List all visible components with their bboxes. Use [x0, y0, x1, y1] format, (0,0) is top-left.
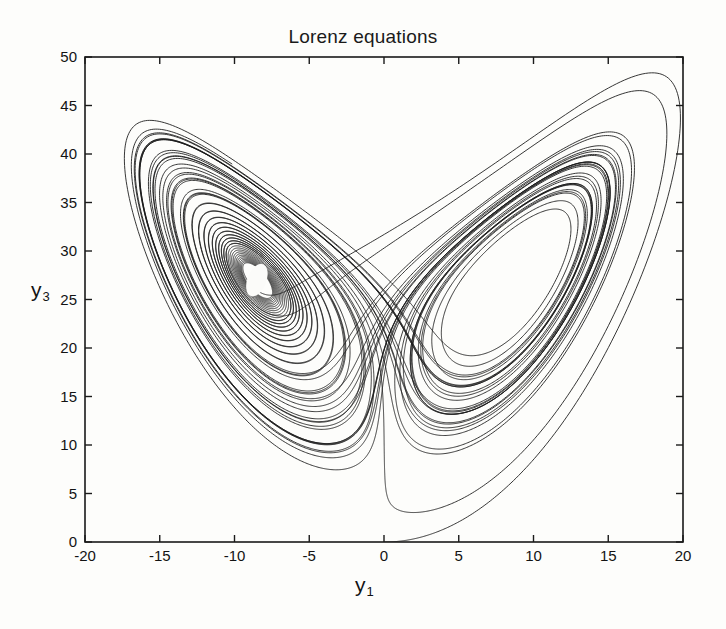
- y-axis-label-text: y: [31, 278, 42, 301]
- y-tick-label: 40: [43, 145, 77, 162]
- y-tick-label: 35: [43, 194, 77, 211]
- x-axis-label-subscript: 1: [367, 584, 374, 599]
- x-axis-label: y1: [355, 573, 373, 597]
- x-tick-label: 15: [588, 547, 628, 564]
- x-tick-label: 0: [364, 547, 404, 564]
- y-tick-label: 45: [43, 97, 77, 114]
- x-tick-label: 20: [663, 547, 703, 564]
- x-tick-label: 10: [514, 547, 554, 564]
- x-axis-label-text: y: [355, 573, 366, 596]
- y-tick-label: 30: [43, 242, 77, 259]
- y-tick-label: 20: [43, 339, 77, 356]
- y-tick-label: 15: [43, 388, 77, 405]
- x-tick-label: -10: [215, 547, 255, 564]
- y-tick-label: 25: [43, 291, 77, 308]
- y-tick-label: 5: [43, 485, 77, 502]
- lorenz-attractor-plot: [0, 0, 726, 629]
- x-tick-label: -20: [65, 547, 105, 564]
- y-tick-label: 50: [43, 48, 77, 65]
- figure-canvas: Lorenz equations y3 y1 05101520253035404…: [0, 0, 726, 629]
- x-tick-label: -15: [140, 547, 180, 564]
- y-tick-label: 10: [43, 436, 77, 453]
- x-tick-label: -5: [289, 547, 329, 564]
- x-tick-label: 5: [439, 547, 479, 564]
